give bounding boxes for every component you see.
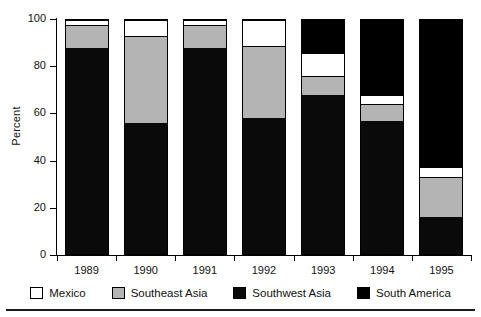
x-axis-tick-label: 1995 bbox=[411, 264, 471, 276]
stacked-bar[interactable] bbox=[183, 19, 227, 255]
x-axis-tick bbox=[412, 255, 413, 261]
bar-segment[interactable] bbox=[184, 48, 226, 254]
bar-group bbox=[419, 19, 463, 255]
x-axis-tick bbox=[294, 255, 295, 261]
bar-segment[interactable] bbox=[302, 76, 344, 95]
x-axis-line bbox=[56, 255, 472, 256]
bar-segment[interactable] bbox=[243, 118, 285, 254]
x-axis-tick bbox=[175, 255, 176, 261]
legend-swatch-sa bbox=[357, 287, 370, 299]
bar-segment[interactable] bbox=[243, 46, 285, 119]
stacked-bar[interactable] bbox=[360, 19, 404, 255]
x-axis-tick bbox=[234, 255, 235, 261]
legend-label: Mexico bbox=[49, 287, 85, 299]
legend-label: Southeast Asia bbox=[131, 287, 208, 299]
legend-swatch-mx bbox=[30, 287, 43, 299]
bar-segment[interactable] bbox=[125, 36, 167, 123]
stacked-bar[interactable] bbox=[65, 19, 109, 255]
y-axis-tick bbox=[50, 255, 56, 256]
y-axis-tick-label: 60 bbox=[0, 107, 46, 118]
legend-label: South America bbox=[376, 287, 451, 299]
bar-segment[interactable] bbox=[420, 167, 462, 176]
x-axis-tick bbox=[471, 255, 472, 261]
bar-group bbox=[360, 19, 404, 255]
bottom-divider bbox=[6, 309, 475, 311]
bar-segment[interactable] bbox=[243, 20, 285, 46]
y-axis-tick bbox=[50, 208, 56, 209]
x-axis-tick bbox=[353, 255, 354, 261]
legend-item[interactable]: Southwest Asia bbox=[233, 287, 331, 299]
bar-segment[interactable] bbox=[361, 20, 403, 95]
stacked-bar[interactable] bbox=[301, 19, 345, 255]
bar-segment[interactable] bbox=[302, 20, 344, 53]
y-axis-tick bbox=[50, 161, 56, 162]
legend-item[interactable]: South America bbox=[357, 287, 451, 299]
bar-segment[interactable] bbox=[361, 121, 403, 254]
bar-group bbox=[124, 19, 168, 255]
bar-segment[interactable] bbox=[361, 95, 403, 104]
bar-group bbox=[301, 19, 345, 255]
x-axis-tick-label: 1992 bbox=[234, 264, 294, 276]
bar-group bbox=[242, 19, 286, 255]
bar-segment[interactable] bbox=[125, 20, 167, 36]
y-axis-title: Percent bbox=[10, 66, 22, 186]
bar-segment[interactable] bbox=[125, 123, 167, 254]
bar-segment[interactable] bbox=[420, 20, 462, 167]
bar-segment[interactable] bbox=[66, 25, 108, 48]
y-axis-tick-label: 40 bbox=[0, 155, 46, 166]
bar-group bbox=[65, 19, 109, 255]
bar-segment[interactable] bbox=[302, 95, 344, 254]
chart-legend: MexicoSoutheast AsiaSouthwest AsiaSouth … bbox=[0, 284, 481, 302]
y-axis-tick-label: 100 bbox=[0, 13, 46, 24]
y-axis-tick-label: 20 bbox=[0, 202, 46, 213]
x-axis-tick-label: 1989 bbox=[57, 264, 117, 276]
bar-segment[interactable] bbox=[66, 48, 108, 254]
y-axis-tick bbox=[50, 113, 56, 114]
bar-segment[interactable] bbox=[420, 177, 462, 217]
x-axis-tick-label: 1994 bbox=[352, 264, 412, 276]
x-axis-tick bbox=[116, 255, 117, 261]
plot-area bbox=[57, 19, 471, 255]
legend-swatch-sw bbox=[233, 287, 246, 299]
bar-segment[interactable] bbox=[420, 217, 462, 254]
stacked-bar[interactable] bbox=[419, 19, 463, 255]
legend-swatch-se bbox=[112, 287, 125, 299]
y-axis-tick-label: 80 bbox=[0, 60, 46, 71]
y-axis-tick bbox=[50, 19, 56, 20]
stacked-bar[interactable] bbox=[124, 19, 168, 255]
bar-group bbox=[183, 19, 227, 255]
legend-label: Southwest Asia bbox=[252, 287, 331, 299]
bar-segment[interactable] bbox=[361, 104, 403, 120]
x-axis-tick-label: 1991 bbox=[175, 264, 235, 276]
y-axis-tick bbox=[50, 66, 56, 67]
bar-segment[interactable] bbox=[302, 53, 344, 76]
legend-item[interactable]: Southeast Asia bbox=[112, 287, 208, 299]
bar-segment[interactable] bbox=[184, 25, 226, 48]
y-axis-tick-label: 0 bbox=[0, 249, 46, 260]
x-axis-tick-label: 1993 bbox=[293, 264, 353, 276]
x-axis-tick bbox=[57, 255, 58, 261]
stacked-bar[interactable] bbox=[242, 19, 286, 255]
chart-figure: Percent 020406080100 1989199019911992199… bbox=[0, 0, 481, 317]
legend-item[interactable]: Mexico bbox=[30, 287, 85, 299]
x-axis-tick-label: 1990 bbox=[116, 264, 176, 276]
